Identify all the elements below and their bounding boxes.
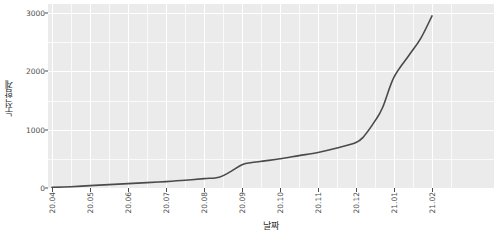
y-tick-label: 0 bbox=[17, 184, 45, 193]
x-tick-label: 20.05 bbox=[86, 192, 95, 213]
x-tick-label: 21.01 bbox=[390, 192, 399, 213]
y-axis-title-label: 누적합계 bbox=[2, 79, 15, 117]
x-axis-tick-labels: 20.0420.0520.0620.0720.0820.0920.1020.11… bbox=[48, 192, 494, 218]
x-tick-label: 20.07 bbox=[162, 192, 171, 213]
cumulative-line-chart: 누적합계 0100020003000 20.0420.0520.0620.072… bbox=[0, 0, 502, 236]
x-tick-label: 20.06 bbox=[124, 192, 133, 213]
y-axis-tick-labels: 0100020003000 bbox=[14, 0, 45, 196]
x-tick-mark bbox=[128, 188, 129, 192]
x-axis-title-label: 날짜 bbox=[263, 221, 280, 231]
x-tick-label: 20.11 bbox=[314, 192, 323, 213]
x-tick-label: 21.02 bbox=[428, 192, 437, 213]
x-tick-label: 20.04 bbox=[48, 192, 57, 213]
x-tick-label: 20.10 bbox=[276, 192, 285, 213]
y-tick-label: 3000 bbox=[17, 9, 45, 18]
plot-panel bbox=[48, 4, 494, 188]
x-tick-mark bbox=[394, 188, 395, 192]
x-axis-title: 날짜 bbox=[48, 219, 494, 232]
x-tick-mark bbox=[242, 188, 243, 192]
y-tick-label: 2000 bbox=[17, 67, 45, 76]
x-tick-label: 20.09 bbox=[238, 192, 247, 213]
x-tick-label: 20.12 bbox=[352, 192, 361, 213]
series-cumulative-total bbox=[48, 4, 494, 188]
x-tick-mark bbox=[280, 188, 281, 192]
x-tick-mark bbox=[52, 188, 53, 192]
x-tick-mark bbox=[432, 188, 433, 192]
x-tick-mark bbox=[318, 188, 319, 192]
x-tick-label: 20.08 bbox=[200, 192, 209, 213]
x-tick-mark bbox=[90, 188, 91, 192]
y-tick-label: 1000 bbox=[17, 125, 45, 134]
x-tick-mark bbox=[166, 188, 167, 192]
x-tick-mark bbox=[204, 188, 205, 192]
x-tick-mark bbox=[356, 188, 357, 192]
series-line bbox=[52, 16, 432, 188]
